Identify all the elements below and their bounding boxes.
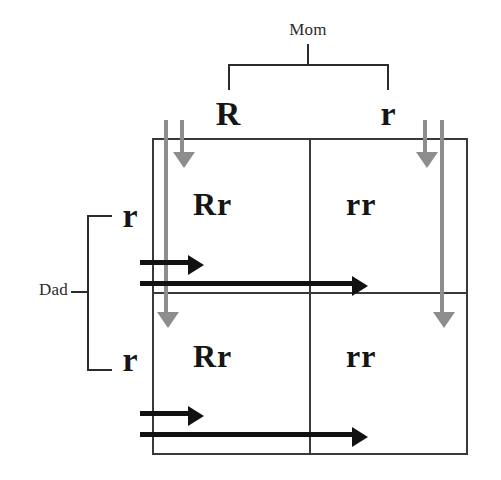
mom-allele-arrow-down-icon xyxy=(173,152,195,168)
row-header-allele-2: r xyxy=(112,340,148,380)
mom-parent-label: Mom xyxy=(268,20,348,40)
dad-allele-arrow-right-icon xyxy=(188,406,204,426)
column-header-allele-1: R xyxy=(198,94,258,134)
mom-allele-arrow-down-icon xyxy=(180,120,184,156)
dad-allele-arrow-right-icon xyxy=(140,260,192,265)
punnett-cell-genotype: rr xyxy=(346,338,376,374)
mom-allele-arrow-down-icon xyxy=(440,120,444,316)
mom-bracket-bar xyxy=(228,64,389,66)
dad-parent-label: Dad xyxy=(8,280,68,300)
mom-allele-arrow-down-icon xyxy=(423,120,427,156)
column-header-allele-2: r xyxy=(358,94,418,134)
punnett-cell-genotype: rr xyxy=(346,186,376,222)
mom-bracket-tick-right xyxy=(387,64,389,90)
dad-allele-arrow-right-icon xyxy=(140,432,356,437)
dad-allele-arrow-right-icon xyxy=(140,281,356,286)
punnett-square-diagram: Mom R r Dad r r Rr rr Rr rr xyxy=(0,0,501,480)
punnett-cell-genotype: Rr xyxy=(193,186,232,222)
dad-bracket-bar xyxy=(87,215,89,371)
row-header-allele-1: r xyxy=(112,196,148,236)
dad-allele-arrow-right-icon xyxy=(188,255,204,275)
mom-allele-arrow-down-icon xyxy=(164,120,168,316)
punnett-cell-genotype: Rr xyxy=(193,338,232,374)
mom-bracket-stem xyxy=(307,44,309,66)
punnett-grid-vertical-divider xyxy=(309,138,311,455)
dad-allele-arrow-right-icon xyxy=(352,276,368,296)
mom-allele-arrow-down-icon xyxy=(157,312,179,328)
mom-allele-arrow-down-icon xyxy=(433,312,455,328)
punnett-grid-horizontal-divider xyxy=(152,292,468,294)
dad-bracket-tick-bottom xyxy=(87,369,112,371)
dad-allele-arrow-right-icon xyxy=(352,427,368,447)
mom-bracket-tick-left xyxy=(228,64,230,90)
dad-allele-arrow-right-icon xyxy=(140,411,192,416)
mom-allele-arrow-down-icon xyxy=(416,152,438,168)
dad-bracket-tick-top xyxy=(87,215,112,217)
